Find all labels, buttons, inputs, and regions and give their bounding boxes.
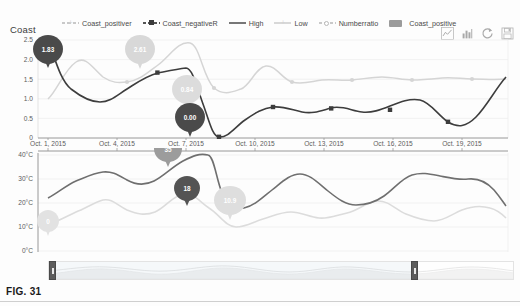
legend-item-numberratio[interactable]: Numberratio — [319, 19, 379, 28]
legend-symbol-dashed-plus-icon: + — [62, 19, 79, 27]
chart-legend-row: + Coast_positiver Coast_negativeR High + — [0, 14, 520, 32]
svg-text:20°C: 20°C — [18, 199, 33, 206]
figure-root: + Coast_positiver Coast_negativeR High + — [0, 0, 520, 306]
svg-text:2.61: 2.61 — [134, 46, 147, 53]
top-chart-x-ticklabels: Oct. 1, 2015 Oct. 4, 2015 Oct. 7, 2015 O… — [30, 140, 482, 147]
svg-text:Oct. 19, 2015: Oct. 19, 2015 — [442, 140, 482, 147]
page-divider — [0, 301, 520, 302]
top-chart-y-ticklabels: 2.5 2.0 1.5 1.0 0.5 0 — [24, 36, 34, 140]
series-coast-negativer-line — [48, 40, 506, 137]
bottom-chart-pane: 40°C 30°C 20°C 10°C 0°C 0 35 — [0, 148, 520, 256]
legend-label: Coast_negativeR — [163, 19, 218, 28]
svg-text:10°C: 10°C — [18, 223, 33, 230]
legend-label: High — [249, 19, 264, 28]
datazoom-slider[interactable] — [48, 261, 514, 280]
bottom-chart-grid — [38, 151, 508, 252]
svg-text:1.5: 1.5 — [24, 76, 33, 83]
datazoom-handle-left[interactable] — [49, 261, 56, 280]
annotation-pin-10-9[interactable]: 10.9 — [214, 186, 246, 220]
svg-text:Oct. 7, 2015: Oct. 7, 2015 — [168, 140, 204, 147]
svg-text:35: 35 — [164, 148, 172, 153]
annotation-pin-18[interactable]: 18 — [174, 176, 200, 206]
legend-symbol-plus-icon: + — [274, 19, 291, 27]
svg-text:1.83: 1.83 — [42, 46, 55, 53]
legend-symbol-dashed-ring-icon — [319, 19, 336, 27]
svg-text:Oct. 16, 2015: Oct. 16, 2015 — [373, 140, 413, 147]
svg-text:0.84: 0.84 — [181, 86, 194, 93]
legend-item-high[interactable]: High — [229, 19, 264, 28]
svg-text:Oct. 4, 2015: Oct. 4, 2015 — [99, 140, 135, 147]
bottom-chart-y-ticklabels: 40°C 30°C 20°C 10°C 0°C — [18, 151, 33, 254]
chart-legend: + Coast_positiver Coast_negativeR High + — [62, 14, 456, 32]
top-chart-grid — [38, 40, 508, 138]
svg-text:40°C: 40°C — [18, 151, 33, 158]
figure-caption: FIG. 31 — [6, 286, 41, 297]
svg-text:18: 18 — [183, 185, 191, 192]
top-chart-pane: 2.5 2.0 1.5 1.0 0.5 0 — [0, 32, 520, 140]
annotation-pin-0-00[interactable]: 0.00 — [175, 103, 205, 137]
series-high-line — [48, 154, 506, 208]
legend-symbol-dashed-square-icon — [143, 19, 160, 27]
annotation-pin-low-0[interactable]: 0 — [37, 210, 59, 236]
svg-text:0.5: 0.5 — [24, 115, 33, 122]
datazoom-selected-window — [49, 262, 411, 279]
legend-label: Low — [294, 19, 307, 28]
svg-text:10.9: 10.9 — [224, 197, 237, 204]
annotation-pin-2-61[interactable]: 2.61 — [125, 35, 155, 69]
svg-text:Oct. 13, 2015: Oct. 13, 2015 — [304, 140, 344, 147]
svg-text:0: 0 — [46, 218, 50, 225]
svg-text:Oct. 10, 2015: Oct. 10, 2015 — [235, 140, 275, 147]
legend-item-coast-positiver[interactable]: + Coast_positiver — [62, 19, 132, 28]
svg-text:2.0: 2.0 — [24, 56, 33, 63]
svg-text:Oct. 1, 2015: Oct. 1, 2015 — [30, 140, 66, 147]
legend-symbol-swatch-icon — [389, 19, 406, 27]
series-low-line — [48, 194, 506, 227]
svg-text:1.0: 1.0 — [24, 95, 33, 102]
legend-item-coast-negativer[interactable]: Coast_negativeR — [143, 19, 218, 28]
legend-item-low[interactable]: + Low — [274, 19, 307, 28]
datazoom-handle-right[interactable] — [411, 261, 418, 280]
svg-text:0.00: 0.00 — [184, 114, 197, 121]
legend-label: Numberratio — [339, 19, 379, 28]
svg-text:30°C: 30°C — [18, 175, 33, 182]
series-coast-negativer-markers — [155, 70, 450, 139]
legend-symbol-solid-line-icon — [229, 19, 246, 27]
svg-text:0°C: 0°C — [22, 247, 33, 254]
annotation-pin-1-83[interactable]: 1.83 — [33, 35, 63, 68]
series-coast-positiver-line — [48, 43, 506, 99]
legend-label: Coast_positiver — [82, 19, 132, 28]
svg-text:2.5: 2.5 — [24, 36, 33, 43]
